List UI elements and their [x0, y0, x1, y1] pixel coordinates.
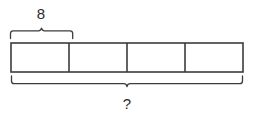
part-value-label: 8	[37, 5, 45, 22]
total-brace-icon	[12, 76, 243, 87]
total-value-label: ?	[123, 95, 131, 112]
tape-diagram: 8 ?	[0, 0, 253, 119]
tape-diagram-canvas: 8 ?	[0, 0, 253, 119]
part-brace-icon	[11, 28, 73, 38]
